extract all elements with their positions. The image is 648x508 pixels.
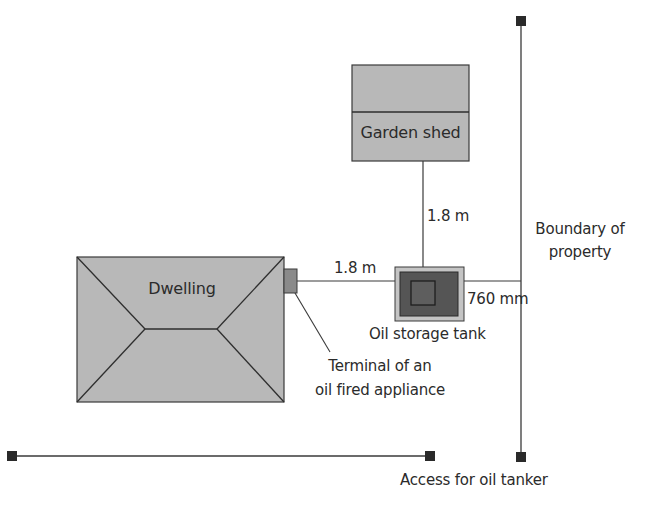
garden-shed-label: Garden shed [352, 124, 469, 142]
terminal-label-line1: Terminal of an [280, 357, 480, 375]
boundary-label-line2: property [520, 243, 640, 261]
boundary-bottom-marker [516, 452, 526, 462]
terminal-label-line2: oil fired appliance [280, 381, 480, 399]
boundary-label-line1: Boundary of [520, 220, 640, 238]
access-line [7, 451, 435, 461]
garden-shed [352, 65, 469, 161]
tank-to-shed-dimension: 1.8 m [427, 207, 469, 225]
oil-storage-tank [395, 267, 464, 321]
tank-to-terminal-dimension: 1.8 m [334, 259, 376, 277]
oil-tank-label: Oil storage tank [369, 325, 486, 343]
tank-to-boundary-dimension: 760 mm [467, 290, 528, 308]
access-right-marker [425, 451, 435, 461]
boundary-top-marker [516, 16, 526, 26]
dwelling-label: Dwelling [120, 280, 244, 298]
property-boundary [516, 16, 526, 462]
access-left-marker [7, 451, 17, 461]
access-label: Access for oil tanker [400, 471, 548, 489]
